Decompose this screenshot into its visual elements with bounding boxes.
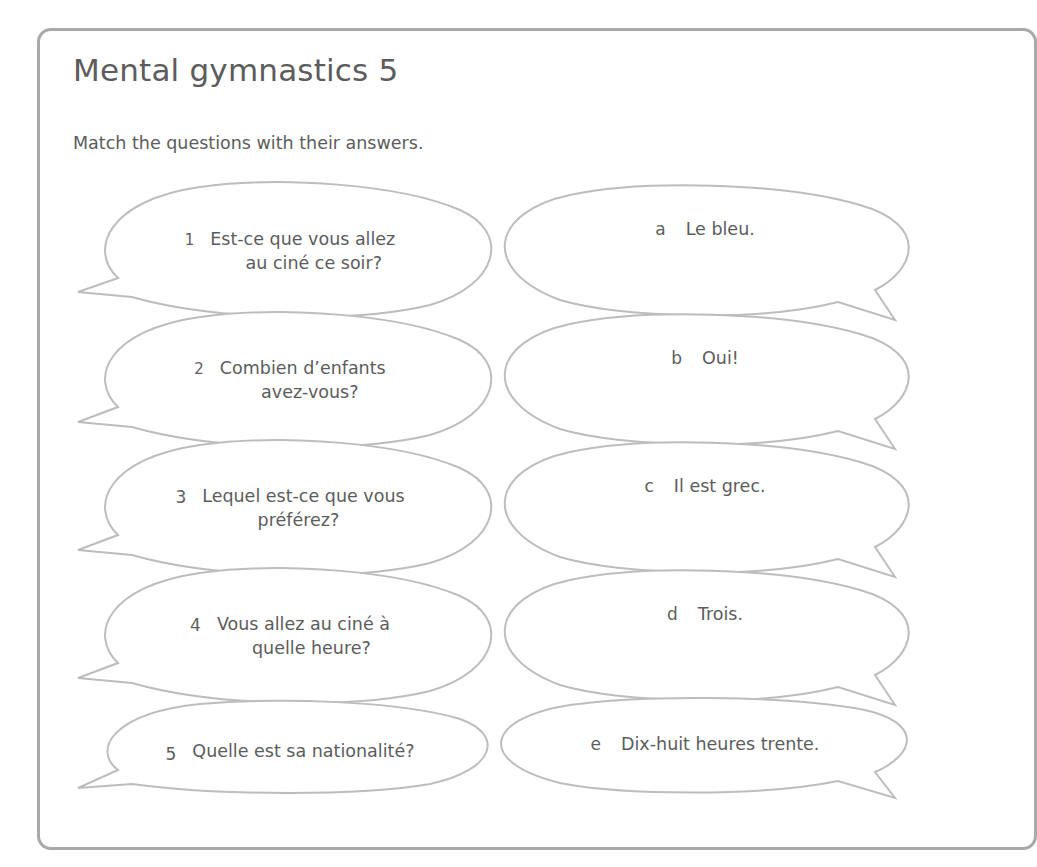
question-text-line1: Est-ce que vous allez xyxy=(210,227,395,251)
question-text-line2: quelle heure? xyxy=(236,636,371,660)
question-text-line2: au ciné ce soir? xyxy=(224,251,382,275)
answer-bubble-c[interactable]: c Il est grec. xyxy=(510,462,900,510)
question-number: 2 xyxy=(194,357,204,381)
answer-bubble-b[interactable]: b Oui! xyxy=(510,334,900,382)
question-bubble-4[interactable]: 4 Vous allez au ciné à quelle heure? xyxy=(105,590,475,682)
answer-text: Oui! xyxy=(702,346,739,370)
question-bubble-3[interactable]: 3 Lequel est-ce que vous préférez? xyxy=(105,462,475,554)
answer-letter: b xyxy=(671,346,682,370)
question-text-line2: avez-vous? xyxy=(247,380,358,404)
answer-letter: c xyxy=(644,474,653,498)
question-text-line2: préférez? xyxy=(258,508,350,532)
question-number: 1 xyxy=(185,228,195,252)
answer-text: Dix-huit heures trente. xyxy=(621,732,819,756)
page-title: Mental gymnastics 5 xyxy=(73,52,398,88)
question-text: Quelle est sa nationalité? xyxy=(192,739,414,763)
answer-bubble-e[interactable]: e Dix-huit heures trente. xyxy=(510,720,900,768)
answer-text: Il est grec. xyxy=(674,474,766,498)
answer-letter: d xyxy=(667,602,678,626)
answer-text: Le bleu. xyxy=(686,217,755,241)
question-text-line1: Vous allez au ciné à xyxy=(217,612,390,636)
question-number: 4 xyxy=(190,613,201,637)
question-bubble-2[interactable]: 2 Combien d’enfants avez-vous? xyxy=(105,334,475,426)
instruction-text: Match the questions with their answers. xyxy=(73,133,423,153)
question-bubble-5[interactable]: 5 Quelle est sa nationalité? xyxy=(105,712,475,792)
question-number: 5 xyxy=(166,742,177,766)
question-text-line1: Lequel est-ce que vous xyxy=(202,484,404,508)
answer-text: Trois. xyxy=(698,602,743,626)
question-bubble-1[interactable]: 1 Est-ce que vous allez au ciné ce soir? xyxy=(105,205,475,297)
question-number: 3 xyxy=(175,485,186,509)
answer-letter: a xyxy=(655,217,665,241)
answer-letter: e xyxy=(591,732,601,756)
answer-bubble-d[interactable]: d Trois. xyxy=(510,590,900,638)
question-text-line1: Combien d’enfants xyxy=(220,356,386,380)
answer-bubble-a[interactable]: a Le bleu. xyxy=(510,205,900,253)
